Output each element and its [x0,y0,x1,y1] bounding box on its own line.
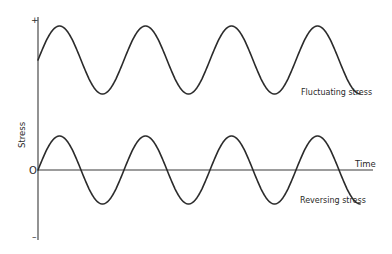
y-minus-marker: – [32,232,37,242]
reversing-stress-label: Reversing stress [300,196,366,205]
fluctuating-stress-curve [38,26,360,94]
y-zero-marker: O [29,165,37,176]
x-axis-label: Time [354,159,376,169]
y-axis-label: Stress [17,121,27,148]
fluctuating-stress-label: Fluctuating stress [301,88,372,97]
y-plus-marker: + [31,15,39,25]
stress-diagram: + O – Stress Time Fluctuating stress Rev… [0,0,392,254]
